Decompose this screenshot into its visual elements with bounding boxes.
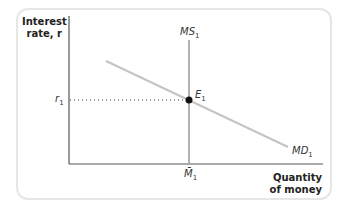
ms-label: MS1 [180, 26, 199, 42]
equilibrium-label-sub: 1 [201, 95, 205, 103]
r1-label-sub: 1 [59, 99, 63, 107]
md-label-text: MD [292, 145, 308, 156]
md-label-sub: 1 [308, 151, 312, 159]
m1-label-sub: 1 [193, 174, 197, 182]
r1-label: r1 [55, 93, 64, 109]
md-label: MD1 [292, 145, 313, 161]
x-axis-label-line1: Quantity [262, 172, 322, 184]
x-axis-label-line2: of money [262, 184, 322, 196]
m1-label-text: M̄ [184, 168, 193, 179]
ms-label-sub: 1 [195, 32, 199, 40]
y-axis-label-line1: Interest [22, 16, 62, 28]
m1-label: M̄1 [184, 168, 197, 184]
y-axis-label: Interest rate, r [22, 16, 62, 40]
equilibrium-label: E1 [195, 89, 206, 105]
equilibrium-point [186, 97, 193, 104]
ms-label-text: MS [180, 26, 195, 37]
x-axis-label: Quantity of money [262, 172, 322, 196]
y-axis-label-line2: rate, r [22, 28, 62, 40]
